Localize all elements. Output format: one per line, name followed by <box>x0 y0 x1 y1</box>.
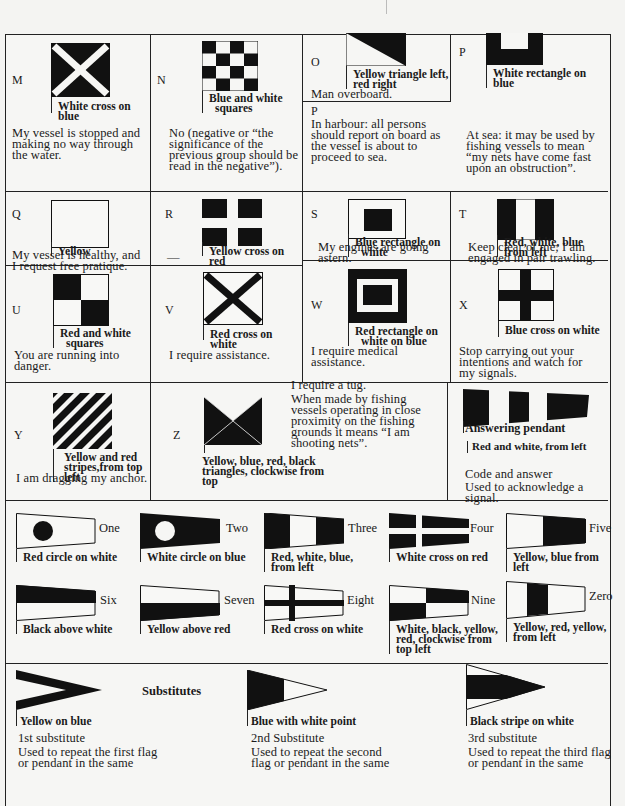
flag-o-icon <box>346 33 406 66</box>
flag-meaning-harbour: In harbour: all persons should report on… <box>311 119 451 163</box>
cell-flag-o: O Yellow triangle left, red right Man ov… <box>303 35 451 102</box>
meaning-line: Code and answer <box>465 469 610 480</box>
flag-caption: Yellow on blue <box>16 710 92 726</box>
substitute-name: 3rd substitute <box>468 733 625 744</box>
flag-letter: W <box>311 298 322 313</box>
signal-flags-page: M White cross on blue My vessel is stopp… <box>0 0 625 806</box>
flag-caption: Red and white squares <box>53 326 131 348</box>
flag-letter: N <box>157 73 166 88</box>
substitutes-title: Substitutes <box>142 684 201 699</box>
flag-meaning-sea: At sea: it may be used by fishing vessel… <box>466 130 606 174</box>
flag-caption: Yellow triangle left, red right <box>346 66 449 89</box>
substitutes-section: Substitutes Yellow on blue 1st substitut… <box>6 664 608 806</box>
substitute-2-meaning: 2nd Substitute Used to repeat the second… <box>251 733 451 769</box>
flag-meaning: No (negative or “the significance of the… <box>169 128 301 172</box>
flag-m-icon <box>51 43 110 97</box>
meaning-line: assistance. <box>311 357 446 368</box>
flag-caption: Yellow cross on red <box>202 242 302 256</box>
flag-caption: Red rectangle on white on blue <box>348 323 438 346</box>
caption-line: from left <box>513 632 606 642</box>
cell-answering-pendant: Answering pendant Red and white, from le… <box>448 383 608 501</box>
pennant-seven-icon <box>140 585 220 621</box>
pennant-zero-icon <box>506 581 586 619</box>
pennant-four-icon <box>389 513 469 549</box>
flag-letter: T <box>459 207 466 222</box>
cell-flag-z: Z Yellow, blue, red, black triangles, cl… <box>151 383 448 501</box>
substitute-3-icon <box>466 664 546 710</box>
meaning-line: read in the negative”). <box>169 161 301 172</box>
caption-line: triangles, clockwise from <box>202 466 324 476</box>
cell-flag-v: V Red cross on white I require assistanc… <box>151 266 303 383</box>
flag-caption: Red cross on white <box>203 325 302 340</box>
pennant-two-icon <box>140 513 220 549</box>
flag-z-icon <box>204 397 262 445</box>
flag-caption: Red circle on white <box>16 549 117 562</box>
flag-caption: Black above white <box>16 621 112 634</box>
meaning-line: or pendant in the same <box>468 758 625 769</box>
flag-q-icon <box>51 200 109 248</box>
pennant-label: Five <box>589 521 611 536</box>
flag-meaning: You are running into danger. <box>14 350 149 372</box>
pennant-label: One <box>99 521 120 536</box>
cell-flag-p: P White rectangle on blue <box>451 35 608 102</box>
caption-line: from left <box>271 562 353 572</box>
cell-flag-x: X Blue cross on white Stop carrying out … <box>451 261 608 383</box>
cell-flag-p-meaning: P In harbour: all persons should report … <box>303 102 608 192</box>
flag-caption: White rectangle on blue <box>486 65 586 88</box>
pennant-label: Four <box>470 521 494 536</box>
flag-r-meaning: — <box>167 252 180 263</box>
flag-w-icon <box>348 269 407 323</box>
flag-letter: P <box>459 45 466 60</box>
flag-letter: U <box>12 303 21 318</box>
caption-line: top <box>202 476 324 486</box>
meaning-line: I require a tug. <box>291 380 451 391</box>
flag-meaning: I require medical assistance. <box>311 346 446 368</box>
cell-flag-m: M White cross on blue My vessel is stopp… <box>6 35 151 192</box>
flag-table: M White cross on blue My vessel is stopp… <box>5 34 611 806</box>
answering-pendant-title: Answering pendant <box>465 421 565 436</box>
meaning-line: shooting nets”. <box>291 438 451 449</box>
substitute-1-meaning: 1st substitute Used to repeat the first … <box>18 733 218 769</box>
pennant-nine-icon <box>389 585 469 621</box>
flag-caption: Blue cross on white <box>498 321 600 337</box>
pennant-label: Three <box>348 521 377 536</box>
flag-caption: Yellow above red <box>140 621 230 634</box>
flag-letter: R <box>165 207 173 222</box>
meaning-line: my signals. <box>459 368 607 379</box>
flag-caption: Red, white, blue, from left <box>264 549 353 572</box>
substitute-3-meaning: 3rd substitute Used to repeat the third … <box>468 733 625 769</box>
flag-caption: Yellow, red, yellow, from left <box>506 619 606 642</box>
pennant-label: Nine <box>471 593 495 608</box>
flag-letter: Q <box>12 207 21 222</box>
flag-letter: Y <box>14 428 23 443</box>
substitute-2-icon <box>247 670 327 710</box>
pennant-label: Six <box>100 593 117 608</box>
flag-caption: Red and white, from left <box>467 441 586 453</box>
flag-meaning: I require assistance. <box>169 350 270 361</box>
flag-meaning: Stop carrying out your intentions and wa… <box>459 346 607 379</box>
flag-caption: Yellow, blue, red, black triangles, cloc… <box>202 456 324 486</box>
pennant-one-icon <box>16 513 96 549</box>
flag-v-icon <box>203 272 263 325</box>
caption-tick <box>463 421 464 433</box>
header-divider <box>386 0 387 14</box>
meaning-line: upon an obstruction”. <box>466 163 606 174</box>
substitute-name: 2nd Substitute <box>251 733 451 744</box>
meaning-line: flag or pendant in the same <box>251 758 451 769</box>
answering-meaning: Code and answer Used to acknowledge a si… <box>465 469 610 504</box>
flag-y-icon <box>53 393 112 449</box>
flag-caption: White circle on blue <box>140 549 246 562</box>
flag-letter: X <box>459 298 468 313</box>
cell-flag-u: U Red and white squares You are running … <box>6 266 151 383</box>
flag-caption: White cross on blue <box>51 97 150 113</box>
flag-s-icon <box>348 199 406 239</box>
caption-line: squares <box>60 338 131 348</box>
pennant-five-icon <box>506 513 586 549</box>
flag-u-icon <box>53 274 109 326</box>
pennant-label: Eight <box>347 593 374 608</box>
substitute-1-icon <box>16 670 102 710</box>
caption-line: top left <box>396 644 498 654</box>
flag-caption: White cross on red <box>389 549 488 562</box>
flag-caption: White, black, yellow, red, clockwise fro… <box>389 621 498 654</box>
flag-caption: Blue with white point <box>247 710 356 726</box>
